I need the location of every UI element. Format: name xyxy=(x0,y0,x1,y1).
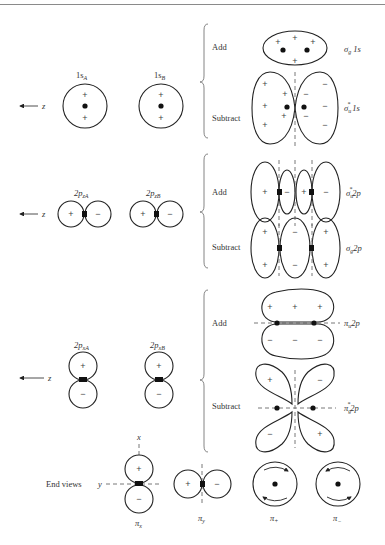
mo-sigma-g-2p: + + − − + + xyxy=(251,218,340,278)
subtract-label: Subtract xyxy=(212,401,241,411)
svg-text:−: − xyxy=(317,375,322,385)
svg-text:−: − xyxy=(267,335,272,345)
z-axis-label: z xyxy=(41,209,46,219)
end-view-pi-x: x y + − πx xyxy=(97,432,162,529)
orbital-2pzA: 2pzA + − xyxy=(58,188,111,227)
svg-text:+: + xyxy=(140,209,145,219)
x-axis-label: x xyxy=(136,432,141,442)
svg-text:−: − xyxy=(214,479,219,489)
z-axis-label: z xyxy=(41,101,46,111)
svg-text:+: + xyxy=(82,90,87,100)
orbital-1sB: 1sB + + xyxy=(139,70,183,128)
mo-sigma-u-star-1s: + + + + + − − − − − xyxy=(252,72,338,146)
add-label: Add xyxy=(212,318,227,328)
svg-text:+: + xyxy=(317,302,322,312)
mo-label: σg 1s xyxy=(344,44,362,55)
orbital-2pzB: 2pzB + − xyxy=(130,188,183,227)
svg-text:+: + xyxy=(267,375,272,385)
svg-text:−: − xyxy=(322,79,327,89)
z-axis-label: z xyxy=(47,373,52,383)
end-view-label: πx xyxy=(135,518,142,529)
svg-text:−: − xyxy=(323,187,328,197)
svg-text:+: + xyxy=(262,79,267,89)
svg-text:+: + xyxy=(323,260,328,270)
svg-text:+: + xyxy=(80,361,85,371)
add-label: Add xyxy=(212,42,227,52)
row-2px: z 2pxA + − 2pxB + − Add Subtract xyxy=(20,289,360,452)
y-axis-label: y xyxy=(97,479,102,489)
orbital-label: 1sA xyxy=(76,70,88,81)
orbital-label: 2pxA xyxy=(74,340,89,351)
mo-pi-u-2p: + + + − − − xyxy=(254,289,340,359)
svg-text:+: + xyxy=(281,111,286,121)
svg-text:−: − xyxy=(322,101,327,111)
z-axis-arrow: z xyxy=(20,209,46,219)
orbital-label: 2pxB xyxy=(150,340,165,351)
brace xyxy=(200,24,208,138)
orbital-1sA: 1sA + + xyxy=(63,70,107,128)
brace xyxy=(200,290,208,452)
svg-text:−: − xyxy=(284,187,289,197)
mo-label: σg2p xyxy=(346,243,362,254)
brace xyxy=(200,154,208,268)
orbital-label: 2pzB xyxy=(146,188,161,199)
z-axis-arrow: z xyxy=(20,101,46,111)
svg-text:−: − xyxy=(95,209,100,219)
svg-text:−: − xyxy=(80,389,85,399)
orbital-label: 2pzA xyxy=(74,188,89,199)
mo-sigma-u-star-2p: + − + − xyxy=(251,160,340,226)
end-views-label: End views xyxy=(46,479,82,489)
end-view-pi-minus: π− xyxy=(316,462,360,524)
svg-text:−: − xyxy=(317,335,322,345)
mo-sigma-g-1s: + + + + xyxy=(263,31,327,66)
svg-text:+: + xyxy=(262,187,267,197)
svg-text:+: + xyxy=(301,187,306,197)
svg-text:+: + xyxy=(262,120,267,130)
svg-text:+: + xyxy=(292,33,297,43)
subtract-label: Subtract xyxy=(212,242,241,252)
svg-text:−: − xyxy=(292,335,297,345)
mo-label: πg*2p xyxy=(344,401,359,414)
svg-text:−: − xyxy=(136,494,141,504)
mo-label: πu2p xyxy=(344,318,360,329)
svg-text:+: + xyxy=(292,302,297,312)
svg-text:−: − xyxy=(292,260,297,270)
svg-text:+: + xyxy=(310,37,315,47)
svg-text:+: + xyxy=(156,361,161,371)
orbital-2pxA: 2pxA + − xyxy=(69,340,97,408)
row-2pz: z 2pzA + − 2pzB + − Add Subtract xyxy=(20,154,362,278)
svg-text:+: + xyxy=(275,37,280,47)
end-view-pi-plus: π+ xyxy=(253,462,297,524)
svg-text:+: + xyxy=(68,209,73,219)
svg-text:+: + xyxy=(282,89,287,99)
svg-text:+: + xyxy=(136,464,141,474)
svg-text:+: + xyxy=(323,227,328,237)
svg-text:−: − xyxy=(292,227,297,237)
subtract-label: Subtract xyxy=(212,113,241,123)
end-view-label: π+ xyxy=(270,513,278,524)
end-view-label: π− xyxy=(333,513,341,524)
orbital-2pxB: 2pxB + − xyxy=(145,340,173,408)
mo-label: σu* 1s xyxy=(344,101,361,114)
svg-text:+: + xyxy=(267,302,272,312)
svg-text:+: + xyxy=(262,101,267,111)
mo-label: σu*2p xyxy=(346,186,361,199)
z-axis-arrow: z xyxy=(20,373,52,383)
end-views: End views x y + − πx + − πy xyxy=(46,432,360,529)
mo-pi-g-star-2p: + − − + xyxy=(256,364,336,452)
mo-diagram: z 1sA + + 1sB + + Add Subtract + + xyxy=(0,0,385,545)
orbital-label: 1sB xyxy=(154,70,166,81)
svg-text:+: + xyxy=(292,56,297,66)
svg-text:−: − xyxy=(167,209,172,219)
svg-text:−: − xyxy=(303,111,308,121)
end-view-pi-y: + − πy xyxy=(174,464,231,524)
svg-text:−: − xyxy=(156,389,161,399)
svg-text:+: + xyxy=(158,113,163,123)
svg-text:−: − xyxy=(322,120,327,130)
svg-text:+: + xyxy=(158,90,163,100)
add-label: Add xyxy=(212,187,227,197)
svg-text:+: + xyxy=(262,260,267,270)
svg-text:+: + xyxy=(262,227,267,237)
svg-text:−: − xyxy=(303,89,308,99)
svg-text:+: + xyxy=(82,113,87,123)
